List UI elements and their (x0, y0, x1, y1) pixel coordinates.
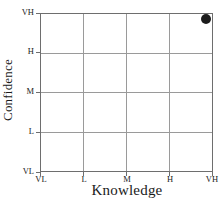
y-axis-ticklabel: VH (14, 7, 34, 17)
gridline-horizontal (41, 92, 212, 93)
y-axis-tick (36, 92, 40, 93)
y-axis-ticklabel: L (14, 126, 34, 136)
gridline-horizontal (41, 132, 212, 133)
y-axis-ticklabel: H (14, 46, 34, 56)
plot-area (40, 13, 213, 172)
data-point (201, 14, 211, 24)
y-axis-ticklabel: M (14, 86, 34, 96)
y-axis-tick (36, 132, 40, 133)
y-axis-tick (36, 52, 40, 53)
y-axis-tick (36, 13, 40, 14)
gridline-horizontal (41, 53, 212, 54)
x-axis-title: Knowledge (40, 182, 214, 199)
scatter-chart: Confidence VH H M L VL VL L M H VH Knowl… (0, 0, 224, 207)
